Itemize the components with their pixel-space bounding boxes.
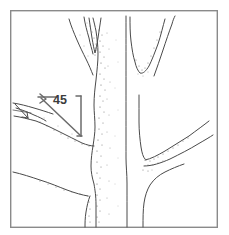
diagram-canvas: 45 (0, 0, 229, 235)
angle-value-label: 45 (53, 93, 67, 107)
tree-diagram-svg: 45 (0, 0, 229, 235)
